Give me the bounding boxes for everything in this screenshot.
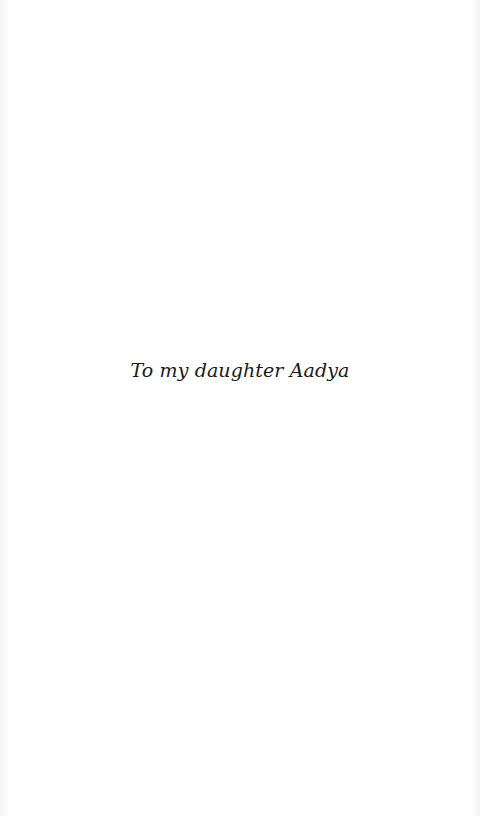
book-page: To my daughter Aadya: [0, 0, 480, 816]
page-edge-left: [0, 0, 10, 816]
page-edge-right: [470, 0, 480, 816]
dedication-text: To my daughter Aadya: [0, 358, 480, 382]
